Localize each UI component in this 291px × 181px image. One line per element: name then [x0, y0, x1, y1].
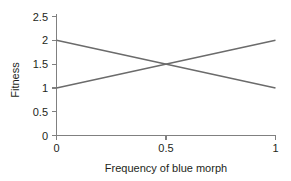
- y-tick-label-0.5: 0.5: [33, 106, 48, 118]
- x-tick-label-1: 1: [272, 142, 278, 154]
- y-tick-label-1.5: 1.5: [33, 58, 48, 70]
- y-tick-label-2: 2: [42, 34, 48, 46]
- y-tick-label-2.5: 2.5: [33, 11, 48, 23]
- fitness-frequency-line-chart: 0 0.5 1 1.5 2 2.5 0 0.5 1 Fitness Freque…: [0, 0, 291, 181]
- chart-container: 0 0.5 1 1.5 2 2.5 0 0.5 1 Fitness Freque…: [0, 0, 291, 181]
- y-axis-title: Fitness: [9, 62, 21, 98]
- x-tick-label-0: 0: [53, 142, 59, 154]
- y-tick-label-1: 1: [42, 82, 48, 94]
- x-axis-title: Frequency of blue morph: [105, 162, 227, 174]
- x-tick-label-0.5: 0.5: [158, 142, 173, 154]
- y-tick-label-0: 0: [42, 130, 48, 142]
